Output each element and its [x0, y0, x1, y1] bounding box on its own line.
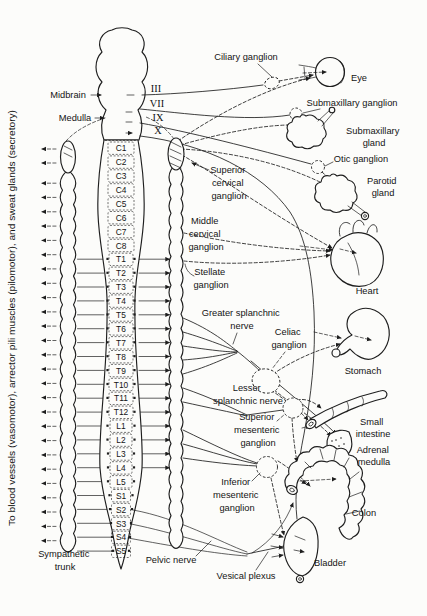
cord-segment-label: S2	[116, 505, 127, 515]
label-middle-cervical-ganglion: Middle cervical ganglion	[188, 216, 223, 252]
label-adrenal-medulla: Adrenal medulla	[357, 445, 392, 467]
label-cn-vii: VII	[150, 98, 165, 109]
label-medulla: Medulla	[59, 113, 92, 123]
label-stellate-ganglion: Stellate ganglion	[193, 267, 228, 290]
cord-segment-label: S3	[116, 519, 127, 529]
img-to-bladder	[271, 478, 284, 535]
label-midbrain: Midbrain	[50, 90, 86, 100]
cord-segment-label: T2	[116, 268, 126, 278]
ciliary-to-eye	[279, 75, 313, 81]
cord-segment-label: L1	[116, 421, 126, 431]
label-celiac-ganglion: Celiac ganglion	[271, 327, 306, 350]
parotid-gland-drawing	[315, 174, 369, 220]
cord-segment-label: C3	[116, 171, 127, 181]
postganglionic-to-parotid	[181, 149, 324, 184]
heart-drawing	[331, 220, 384, 286]
ciliary-ganglion-drawing	[263, 75, 281, 90]
cord-segment-label: T9	[116, 366, 126, 376]
label-cn-iii: III	[151, 83, 162, 94]
autonomic-nervous-system-diagram: C1C2C3C4C5C6C7C8T1T2T3T4T5T6T7T8T9T10T11…	[0, 0, 427, 616]
gray-rami-arrows	[42, 149, 56, 541]
label-pelvic-nerve: Pelvic nerve	[146, 555, 197, 565]
label-superior-mesenteric-ganglion: Superior mesenteric ganglion	[234, 412, 282, 448]
cord-segment-label: C4	[116, 185, 127, 195]
cord-segment-label: T5	[116, 310, 126, 320]
cord-segment-label: C8	[116, 241, 127, 251]
cord-segment-label: C5	[116, 199, 127, 209]
eye-drawing	[299, 58, 345, 87]
otic-ganglion-drawing	[312, 161, 325, 174]
label-cn-x: X	[154, 125, 162, 136]
cord-segment-label: C7	[116, 227, 127, 237]
stomach-drawing	[332, 308, 389, 359]
label-eye: Eye	[351, 73, 367, 83]
label-vesical-plexus: Vesical plexus	[217, 571, 276, 581]
cord-segment-label: T1	[116, 254, 126, 264]
label-superior-cervical-ganglion: Superior cervical ganglion	[210, 165, 248, 201]
cord-segment-label: L3	[116, 449, 126, 459]
cord-segment-label: C1	[116, 143, 127, 153]
label-colon: Colon	[352, 508, 376, 518]
label-otic-ganglion: Otic ganglion	[334, 154, 388, 164]
cord-segment-label: T11	[114, 393, 128, 403]
cord-segment-label: L2	[116, 435, 126, 445]
label-ciliary-ganglion: Ciliary ganglion	[214, 52, 278, 62]
label-submaxillary-gland: Submaxillary gland	[346, 126, 402, 148]
label-greater-splanchnic-nerve: Greater splanchnic nerve	[202, 308, 283, 331]
cord-segment-label: T6	[116, 324, 126, 334]
label-inferior-mesenteric-ganglion: Inferior mesenteric ganglion	[213, 477, 261, 513]
cord-segment-label: T3	[116, 282, 126, 292]
left-sympathetic-trunk	[60, 141, 76, 552]
label-parotid-gland: Parotid gland	[367, 176, 399, 198]
right-sympathetic-chain	[168, 138, 184, 548]
inferior-mesenteric-ganglion-drawing	[257, 457, 278, 478]
label-bladder: Bladder	[314, 558, 346, 568]
smg-descending	[292, 418, 297, 462]
label-small-intestine: Small intestine	[356, 417, 391, 439]
cord-segment-label: L4	[116, 463, 126, 473]
cord-segment-label: T12	[114, 407, 129, 417]
left-margin-text: To blood vessels (vasomotor), arrector p…	[7, 110, 17, 526]
label-stomach: Stomach	[345, 366, 382, 376]
vagus-branch-stomach	[314, 332, 341, 338]
label-submaxillary-ganglion: Submaxillary ganglion	[307, 98, 398, 108]
cord-segment-label: T10	[114, 380, 129, 390]
cord-segment-label: T7	[116, 338, 126, 348]
label-cn-ix: IX	[153, 112, 164, 123]
label-heart: Heart	[356, 286, 379, 296]
bladder-drawing	[284, 517, 318, 583]
cord-segment-label: T8	[116, 352, 126, 362]
cord-segment-label: S4	[116, 532, 127, 542]
superior-mesenteric-ganglion-drawing	[283, 398, 303, 418]
cord-segment-label: S1	[116, 491, 127, 501]
cord-segment-label: C6	[116, 213, 127, 223]
superior-cervical-ganglion-drawing	[168, 138, 184, 170]
cord-segment-label: C2	[116, 157, 127, 167]
cord-segment-label: S5	[116, 546, 127, 556]
organ-drawings	[284, 58, 390, 583]
cord-segment-label: L5	[116, 477, 126, 487]
cord-segment-label: T4	[116, 296, 126, 306]
label-sympathetic-trunk: Sympathetic trunk	[38, 549, 92, 572]
